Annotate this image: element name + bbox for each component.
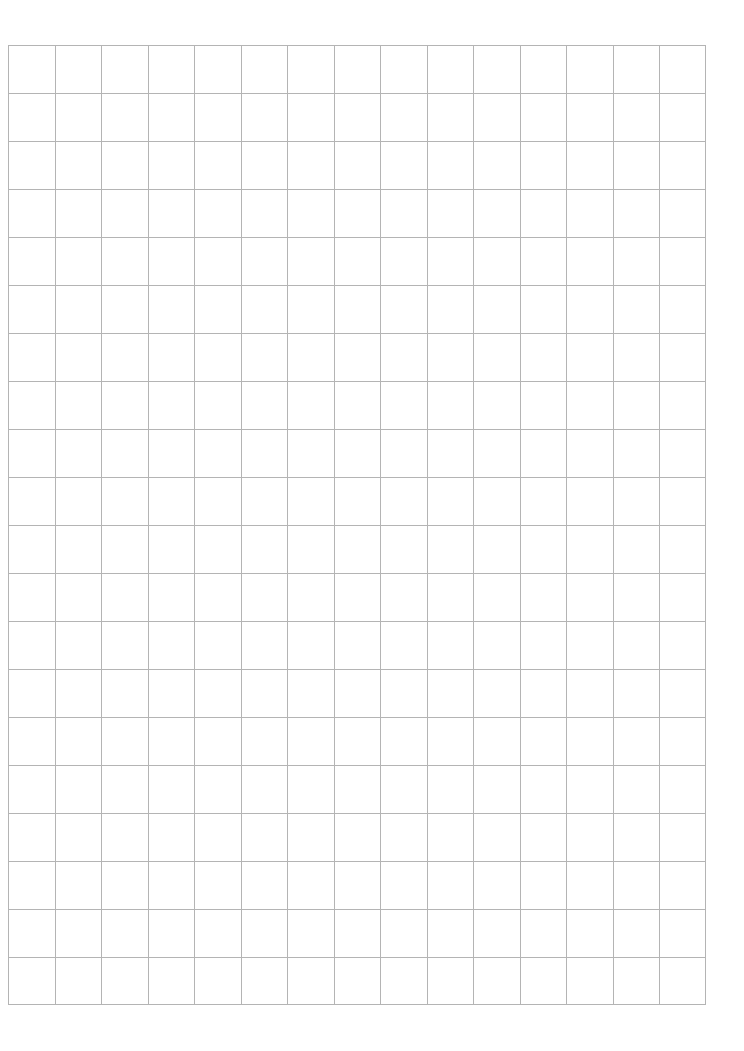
grid-row-line (9, 525, 705, 526)
grid-row-line (9, 621, 705, 622)
grid-row-line (9, 141, 705, 142)
grid-row-line (9, 477, 705, 478)
grid-row-line (9, 237, 705, 238)
grid-row-line (9, 909, 705, 910)
grid-row-line (9, 429, 705, 430)
grid-row-line (9, 189, 705, 190)
grid-row-line (9, 381, 705, 382)
grid-row-line (9, 93, 705, 94)
grid-row-line (9, 669, 705, 670)
grid-row-line (9, 765, 705, 766)
grid-row-line (9, 861, 705, 862)
grid-row-line (9, 285, 705, 286)
grid-row-line (9, 573, 705, 574)
grid-row-line (9, 813, 705, 814)
grid-row-line (9, 333, 705, 334)
grid (8, 45, 706, 1005)
grid-row-line (9, 717, 705, 718)
grid-row-line (9, 957, 705, 958)
